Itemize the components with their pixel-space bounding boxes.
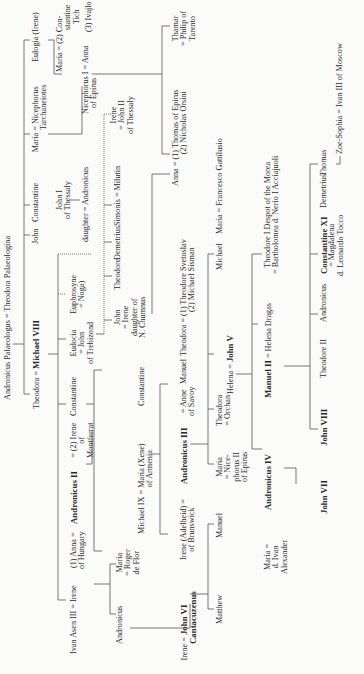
node-nicephorus-anna: Nicephorus I = Annaof Epirus [82,45,99,114]
node-theodore2: Theodore II [320,339,328,378]
ruler-john-vii: John VII [320,480,328,514]
node-john: John [32,229,40,244]
node-theodore-g4: Theodore [114,259,122,290]
node-michael-g6: Michael [216,243,224,270]
node-helena-john5: Helena = John V [226,335,235,394]
node-eudocia: Eudocia= Johnof Trebizond [70,322,95,364]
node-text: = Bartholomea d. Nerio I Acciajuoli [272,156,280,274]
node-text: de Flor [133,549,141,576]
node-zoe-sophia: Zoe-Sophia = Ivan III of Moscow [336,43,344,154]
node-text: of Armenia [146,443,154,534]
node-text: of Epirus [241,452,249,482]
node-text: of Savoy [188,387,196,416]
node-theodora-orchan: Theodora= Orchan [216,395,233,426]
node-maria-gattilusio: Maria = Francesco Gattilusio [216,138,224,234]
node-john-irene: John= Irenedaughter ofN. Chumnus [114,297,148,338]
node-text: of Epirus [90,45,98,114]
node-text: (2) Nicholas Orsini [180,89,188,186]
node-irene-john2: Irene= John IIof Thessaly [110,96,135,134]
ruler-michael-viii: Michael VIII [31,320,41,369]
node-text: of Hungary [78,531,86,569]
node-text: (2) Michael Sisman [188,239,196,356]
node-manuel-g5: Manuel [180,359,188,384]
node-constantine-g3: Constantine [70,377,78,416]
node-constantine-g4: Constantine [138,367,146,406]
node-maria-tarchaneiotes: Maria = NicephorusTarchaneiotes [32,85,49,154]
ruler-andronicus-ii: Andronicus II [70,471,78,524]
node-irene-john6: Irene = John VICantacuzenus [180,591,198,674]
node-thamar: Thamar= Philip ofTarento [172,11,197,46]
family-tree-diagram: Andronicus Palaeologus = Theodora Palaeo… [0,0,364,674]
node-manuel2-helena: Manuel II = Helena Dragas [264,303,273,398]
node-michael9-maria: Michael IX = Maria (Xene)of Armenia [138,443,155,534]
node-theodora-svetoslav: Theodora = (1) Theodore Svetoslav(2) Mic… [180,239,197,356]
ruler-andronicus-iv: Andronicus IV [264,454,272,510]
node-text: Alexander [281,540,289,574]
node-matthew: Matthew [216,595,224,624]
ruler-manuel-ii: Manuel II [263,360,273,398]
node-constantine: Constantine [32,183,40,222]
node-simonis-milutin: Simonis = Milutin [114,166,122,226]
node-root-couple: Andronicus Palaeologus = Theodora Palaeo… [4,236,12,400]
node-demetrius-g8: Demetrius [320,174,328,208]
node-daughter-andronicus: daughter = Andronicus [82,167,90,242]
node-andronicus-g8: Andronicus [320,284,328,322]
node-irene-montferrat: = (2) IreneofMontferrat [70,423,95,458]
node-text: Tarchaneiotes [40,85,48,154]
node-john1-thessaly: John Iof Thessaly [56,181,73,219]
ruler-john-viii: John VIII [320,409,328,446]
node-eulogia: Eulogia (Irene) [32,12,40,62]
node-maria-roger: Maria= Rogerde Flor [116,549,141,576]
node-text: of Thessaly [127,96,135,134]
node-constantine11: Constantine XI= Magdalenad. Leonardo Toc… [320,215,345,276]
node-demetrius-g4: Demetrius [114,226,122,260]
node-ivan-asen-irene: Ivan Asen III = Irene [70,585,78,654]
node-text: Tich [73,1,81,72]
ruler-john-v: John V [225,335,235,362]
node-thomas: Thomas [320,150,328,176]
node-text: Montferrat [87,423,95,458]
node-text: of Brunswick [188,499,196,560]
node-text: Helena = [226,362,235,394]
node-irene-adelheid: Irene (Adelheid) = of Brunswick [180,499,197,560]
node-theodore1-morea: Theodore I Despot of the Morea= Bartholo… [264,156,281,274]
node-maria-nicephorus2: Maria= Nice-phorus IIof Epirus [216,452,250,482]
node-anna-thomas: Anna = (1) Thomas of Epirus(2) Nicholas … [172,89,189,186]
node-text: of Trebizond [87,322,95,364]
ruler-andronicus-iii: Andronicus III [180,428,188,484]
node-anne-savoy: = Anneof Savoy [180,387,197,416]
node-anna-hungary: (1) Anna = of Hungary [70,531,87,569]
node-text: Tarento [189,11,197,46]
node-euphrosyne: Euphrosyne= Noga) [70,275,87,314]
node-manuel-g6: Manuel [216,513,224,538]
node-text: = Noga) [78,275,86,314]
node-text: = Orchan [224,395,232,426]
node-maria-ivan-alexander: Maria = d. IvanAlexander [264,540,289,574]
node-text: of Thessaly [64,181,72,219]
node-text: = Helena Dragas [264,303,273,360]
node-andronicus-g4: Andronicus [116,606,124,644]
node-text: d. Leonardo Tocco [337,215,345,276]
node-text: N. Chumnus [139,297,147,338]
spouse-theodora: Theodora = [32,369,41,409]
ruler-cantacuzenus: Cantacuzenus [189,591,197,674]
node-theodora-michael8: Theodora = Michael VIII [32,320,41,409]
